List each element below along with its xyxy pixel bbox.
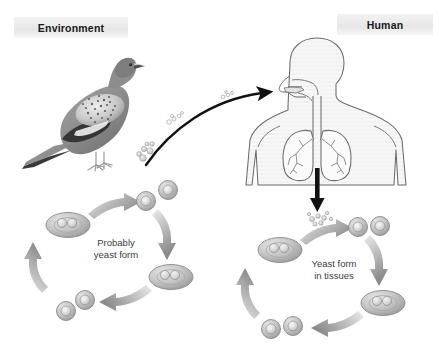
cycle-arrow-left bbox=[236, 268, 260, 319]
tissue-cycle-caption-line2: in tissues bbox=[296, 270, 372, 282]
yeast-cell-budding bbox=[46, 213, 90, 238]
airborne-spore-cluster-3 bbox=[221, 91, 233, 99]
yeast-cell-daughter bbox=[262, 320, 281, 339]
human-figure-illustration bbox=[246, 38, 406, 185]
tissue-cycle-caption: Yeast form in tissues bbox=[296, 258, 372, 282]
environment-cycle-caption-line1: Probably bbox=[80, 237, 152, 249]
cycle-arrow-top bbox=[88, 193, 141, 219]
yeast-cell-daughter bbox=[284, 317, 303, 336]
yeast-cell-single bbox=[159, 181, 178, 200]
inhalation-arrow bbox=[146, 93, 262, 165]
cycle-arrow-top bbox=[300, 219, 353, 245]
environment-label-text: Environment bbox=[38, 22, 104, 34]
airborne-spore-cluster-2 bbox=[167, 112, 184, 125]
tissue-cycle-caption-line1: Yeast form bbox=[296, 258, 372, 270]
yeast-cell-single bbox=[137, 192, 156, 211]
human-label: Human bbox=[337, 14, 433, 35]
diagram-canvas bbox=[0, 0, 444, 349]
yeast-cell-dividing bbox=[361, 291, 405, 316]
environment-label: Environment bbox=[14, 17, 128, 38]
cycle-arrow-bottom bbox=[99, 285, 152, 311]
cycle-arrow-right bbox=[152, 209, 176, 260]
cycle-arrow-bottom bbox=[311, 311, 364, 337]
yeast-cell-dividing bbox=[149, 265, 193, 290]
yeast-cell-single bbox=[371, 217, 390, 236]
yeast-cell-daughter bbox=[76, 291, 95, 310]
yeast-cell-daughter bbox=[57, 302, 76, 321]
pigeon-illustration bbox=[22, 58, 145, 171]
yeast-cell-single bbox=[349, 218, 368, 237]
figure-root: Environment Human Probably yeast form Ye… bbox=[0, 0, 444, 349]
cycle-arrow-left bbox=[24, 242, 48, 293]
human-label-text: Human bbox=[367, 19, 404, 31]
environment-cycle-caption-line2: yeast form bbox=[80, 249, 152, 261]
tissue-spore-cluster bbox=[307, 211, 332, 226]
environment-cycle-caption: Probably yeast form bbox=[80, 237, 152, 261]
